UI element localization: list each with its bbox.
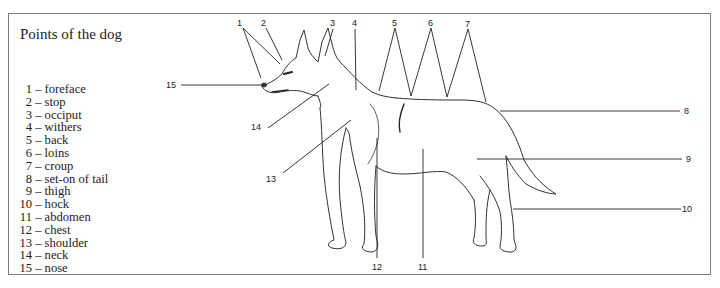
callout-2: 2: [261, 18, 266, 28]
callout-10: 10: [682, 204, 692, 214]
callout-5: 5: [392, 18, 397, 28]
callout-7: 7: [465, 19, 470, 29]
callout-4: 4: [352, 18, 357, 28]
callout-9: 9: [686, 154, 691, 164]
callout-11: 11: [418, 262, 427, 272]
callout-12: 12: [372, 262, 382, 272]
callout-lines: [181, 28, 682, 258]
callout-3: 3: [330, 18, 335, 28]
callout-14: 14: [251, 122, 261, 132]
callout-13: 13: [266, 174, 276, 184]
callout-15: 15: [166, 80, 176, 90]
dog-illustration: 1 2 3 4 5 6 7 8 9 10 11 12 13 14 15: [0, 0, 720, 288]
dog-figure: [262, 28, 557, 252]
callout-1: 1: [237, 18, 242, 28]
callout-8: 8: [684, 106, 689, 116]
callout-6: 6: [428, 18, 433, 28]
